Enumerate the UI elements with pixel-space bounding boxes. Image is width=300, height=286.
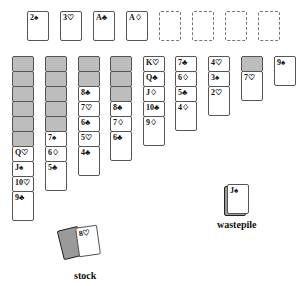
tableau-card[interactable]: 6♣	[78, 116, 100, 132]
empty-foundation-slot[interactable]	[192, 11, 214, 41]
face-down-card[interactable]	[12, 101, 34, 117]
face-down-card[interactable]	[12, 116, 34, 132]
foundation-card[interactable]: 2♠	[27, 11, 49, 41]
face-down-card[interactable]	[78, 71, 100, 87]
tableau-card[interactable]: 7♢	[110, 116, 132, 132]
tableau-card[interactable]: 5♡	[78, 131, 100, 147]
foundation-card[interactable]: A♣	[93, 11, 115, 41]
tableau-card[interactable]: 10♡	[12, 176, 34, 192]
tableau-card[interactable]: 5♣	[175, 86, 197, 102]
tableau-card[interactable]: 3♠	[208, 71, 230, 87]
tableau-card[interactable]: 2♡	[208, 86, 230, 116]
face-down-card[interactable]	[241, 56, 263, 72]
tableau-card[interactable]: 9♠	[274, 56, 296, 86]
wastepile-top-card[interactable]: J♠	[227, 184, 249, 214]
tableau-card[interactable]: 5♣	[45, 161, 67, 191]
face-down-card[interactable]	[110, 56, 132, 72]
face-down-card[interactable]	[12, 86, 34, 102]
face-down-card[interactable]	[12, 71, 34, 87]
tableau-card[interactable]: 8♣	[78, 86, 100, 102]
face-down-card[interactable]	[45, 56, 67, 72]
tableau-card[interactable]: 7♡	[241, 71, 263, 101]
wastepile-label: wastepile	[217, 219, 256, 230]
face-down-card[interactable]	[110, 86, 132, 102]
tableau-card[interactable]: 6♢	[175, 71, 197, 87]
tableau-card[interactable]: 7♠	[45, 131, 67, 147]
foundation-card[interactable]: 3♡	[60, 11, 82, 41]
tableau-card[interactable]: 4♣	[78, 146, 100, 176]
face-down-card[interactable]	[78, 56, 100, 72]
tableau-card[interactable]: Q♣	[143, 71, 165, 87]
face-down-card[interactable]	[45, 71, 67, 87]
tableau-card[interactable]: 8♣	[110, 101, 132, 117]
face-down-card[interactable]	[45, 86, 67, 102]
face-down-card[interactable]	[12, 131, 34, 147]
tableau-card[interactable]: 6♣	[110, 131, 132, 161]
tableau-card[interactable]: K♡	[143, 56, 165, 72]
tableau-card[interactable]: 9♢	[143, 116, 165, 146]
face-down-card[interactable]	[45, 101, 67, 117]
stock-label: stock	[74, 270, 96, 281]
tableau-card[interactable]: J♠	[12, 161, 34, 177]
tableau-card[interactable]: 7♣	[175, 56, 197, 72]
stock-top-card[interactable]: 8♡	[75, 225, 101, 258]
face-down-card[interactable]	[12, 56, 34, 72]
tableau-card[interactable]: 4♢	[175, 101, 197, 131]
tableau-card[interactable]: 7♡	[78, 101, 100, 117]
face-down-card[interactable]	[45, 116, 67, 132]
face-down-card[interactable]	[110, 71, 132, 87]
tableau-card[interactable]: 10♣	[143, 101, 165, 117]
tableau-card[interactable]: Q♡	[12, 146, 34, 162]
tableau-card[interactable]: 4♡	[208, 56, 230, 72]
tableau-card[interactable]: J♢	[143, 86, 165, 102]
empty-foundation-slot[interactable]	[225, 11, 247, 41]
empty-foundation-slot[interactable]	[258, 11, 280, 41]
empty-foundation-slot[interactable]	[159, 11, 181, 41]
tableau-card[interactable]: 9♣	[12, 191, 34, 221]
foundation-card[interactable]: A♢	[126, 11, 148, 41]
tableau-card[interactable]: 6♢	[45, 146, 67, 162]
